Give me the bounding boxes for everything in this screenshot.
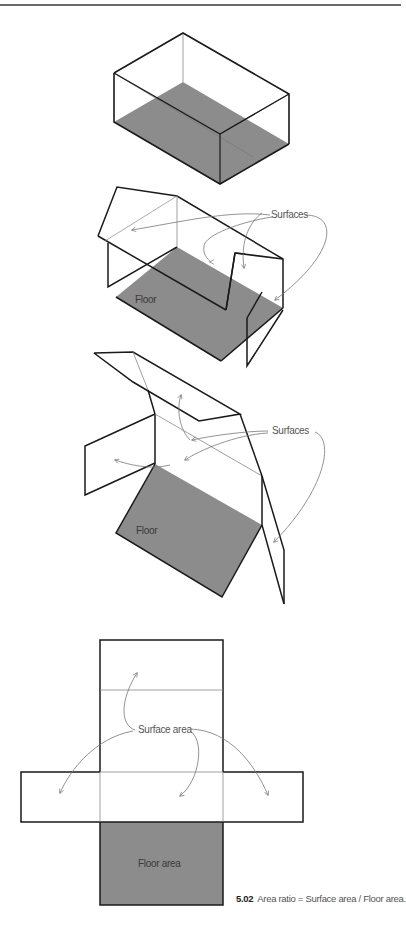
figure-caption: 5.02Area ratio = Surface area / Floor ar… — [236, 893, 406, 904]
floor-area-label: Floor area — [138, 858, 181, 869]
box-figure — [114, 33, 289, 184]
surface-area-label: Surface area — [138, 724, 192, 735]
unfolding-1-figure: Surfaces Floor — [98, 187, 327, 366]
floor-label-2: Floor — [136, 525, 158, 536]
unfolding-2-figure: Surfaces Floor — [85, 352, 325, 604]
box-floor — [114, 82, 289, 184]
net-figure: Surface area Floor area — [21, 640, 303, 905]
surfaces-label-2: Surfaces — [272, 425, 309, 436]
figure-number: 5.02 — [236, 893, 253, 904]
figure-caption-text: Area ratio = Surface area / Floor area. — [257, 893, 406, 904]
floor-label-1: Floor — [135, 294, 157, 305]
surfaces-label-1: Surfaces — [271, 209, 308, 220]
